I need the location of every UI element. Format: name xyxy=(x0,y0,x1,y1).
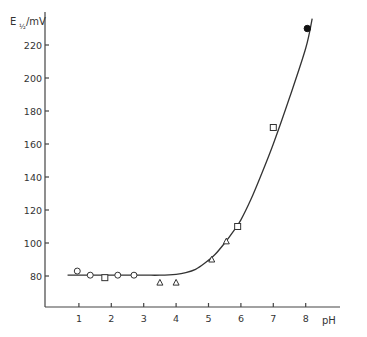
data-point-square-open xyxy=(102,275,108,281)
fitted-curve xyxy=(68,19,313,276)
x-tick-label: 5 xyxy=(205,313,211,324)
axes: 8010012014016018020022012345678 xyxy=(24,12,340,324)
y-axis-label: E ½ /mV xyxy=(10,16,46,31)
x-tick-label: 8 xyxy=(303,313,309,324)
data-point-circle-open xyxy=(115,272,121,278)
data-point-triangle-open xyxy=(157,279,163,285)
y-axis-label-unit: /mV xyxy=(26,16,46,27)
y-tick-label: 160 xyxy=(24,139,42,150)
data-point-square-open xyxy=(270,125,276,131)
y-tick-label: 80 xyxy=(30,271,42,282)
chart: 8010012014016018020022012345678 E ½ /mV … xyxy=(0,0,367,337)
y-axis-label-sub: ½ xyxy=(19,23,26,31)
data-point-circle-open xyxy=(87,272,93,278)
x-tick-label: 4 xyxy=(173,313,179,324)
y-tick-label: 120 xyxy=(24,205,42,216)
y-tick-label: 220 xyxy=(24,40,42,51)
y-tick-label: 100 xyxy=(24,238,42,249)
y-tick-label: 140 xyxy=(24,172,42,183)
data-point-circle-open xyxy=(131,272,137,278)
data-point-circle-open xyxy=(74,268,80,274)
x-axis-label: pH xyxy=(322,315,336,326)
x-tick-label: 6 xyxy=(238,313,244,324)
x-tick-label: 7 xyxy=(270,313,276,324)
fit-line xyxy=(68,19,313,276)
y-axis-label-main: E xyxy=(10,16,16,27)
data-point-triangle-open xyxy=(173,279,179,285)
x-tick-label: 1 xyxy=(76,313,82,324)
x-tick-label: 2 xyxy=(108,313,114,324)
data-point-circle-filled xyxy=(304,25,310,31)
y-tick-label: 200 xyxy=(24,73,42,84)
data-points xyxy=(74,25,310,285)
data-point-square-open xyxy=(235,224,241,230)
y-tick-label: 180 xyxy=(24,106,42,117)
x-tick-label: 3 xyxy=(141,313,147,324)
